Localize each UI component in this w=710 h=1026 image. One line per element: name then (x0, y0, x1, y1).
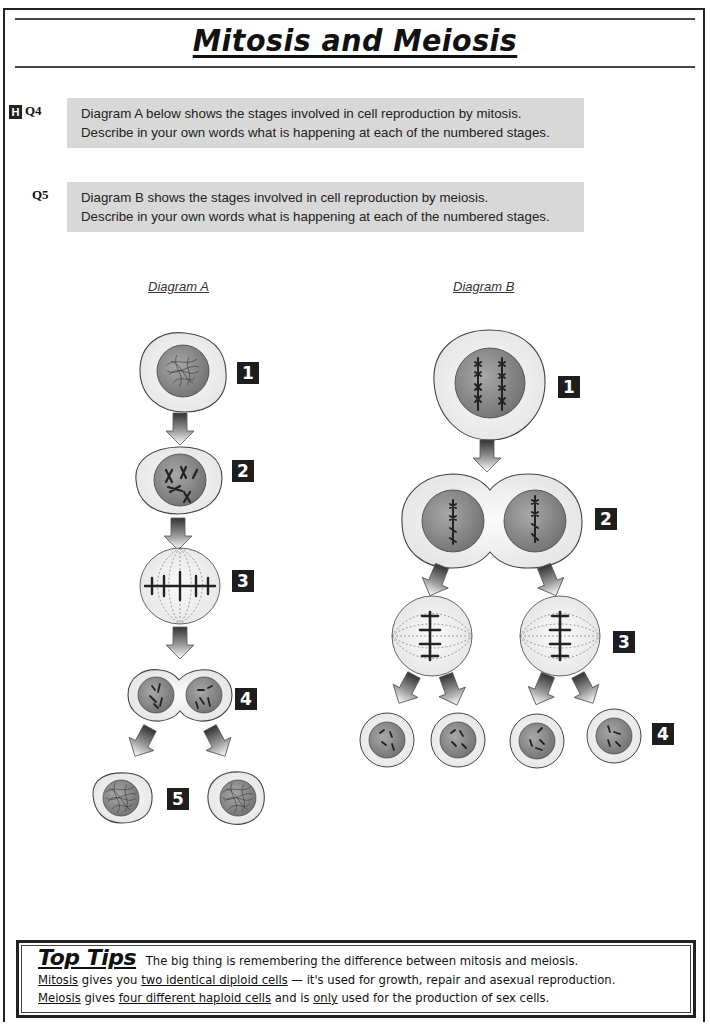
stage-label-a5: 5 (167, 788, 189, 810)
tip-line-2: Mitosis gives you two identical diploid … (38, 971, 690, 990)
stage-label-a2: 2 (232, 460, 254, 482)
tip-text: used for the production of sex cells. (338, 991, 550, 1005)
gamete-cells (360, 709, 641, 768)
top-tips-box: Top Tips The big thing is remembering th… (16, 940, 696, 1018)
stage-label-a3: 3 (232, 570, 254, 592)
tip-text: gives you (78, 973, 141, 987)
tip-line-1: The big thing is remembering the differe… (146, 954, 578, 968)
top-tips-content: Top Tips The big thing is remembering th… (21, 945, 691, 1013)
stage-label-a4: 4 (235, 688, 257, 710)
stage-label-a1: 1 (237, 362, 259, 384)
stage-label-b2: 2 (595, 508, 617, 530)
tip-term-mitosis: Mitosis (38, 973, 78, 987)
tip-emphasis: only (313, 991, 338, 1005)
stage-label-b3: 3 (613, 631, 635, 653)
tip-highlight: two identical diploid cells (141, 973, 288, 987)
tip-text: and is (271, 991, 313, 1005)
tip-text: — it's used for growth, repair and asexu… (288, 973, 616, 987)
stage-label-b1: 1 (558, 376, 580, 398)
tip-highlight: four different haploid cells (119, 991, 271, 1005)
tip-term-meiosis: Meiosis (38, 991, 81, 1005)
tip-line-3: Meiosis gives four different haploid cel… (38, 989, 690, 1008)
top-tips-title: Top Tips (38, 945, 136, 970)
cell-division-diagrams (0, 0, 710, 940)
stage-label-b4: 4 (652, 723, 674, 745)
tip-text: gives (81, 991, 119, 1005)
